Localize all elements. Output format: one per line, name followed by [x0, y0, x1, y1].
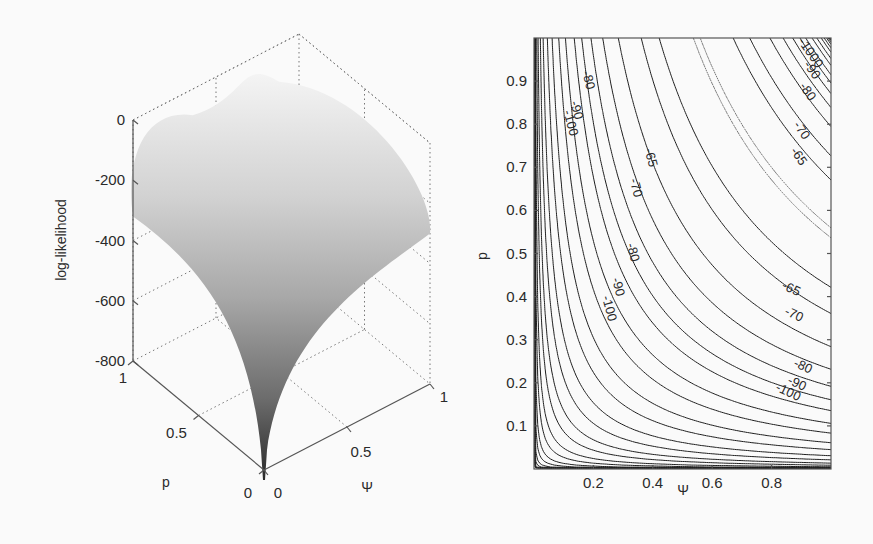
- p-tick-label: 1: [119, 369, 127, 386]
- z-tick-label: -800: [95, 352, 125, 369]
- surface-plot-3d: 0-200-400-600-80000.5100.51 log-likeliho…: [53, 34, 448, 501]
- contour-label: -70: [783, 303, 806, 325]
- x-tick-label: 0.2: [583, 474, 604, 491]
- z-tick: [133, 361, 138, 365]
- x-tick-label: 0.8: [761, 474, 782, 491]
- p-tick: [194, 416, 199, 420]
- z-tick-label: 0: [117, 111, 125, 128]
- psi-tick-label: 0: [274, 484, 282, 501]
- y-tick-label: 0.3: [506, 331, 527, 348]
- x-tick-label: 0.6: [702, 474, 723, 491]
- y-tick-label: 0.1: [506, 417, 527, 434]
- psi-tick: [430, 384, 434, 389]
- psi-tick-label: 0.5: [351, 443, 372, 460]
- z-tick: [133, 241, 138, 245]
- z-tick: [133, 301, 138, 305]
- y-tick-label: 0.5: [506, 245, 527, 262]
- p-tick-label: 0: [244, 484, 252, 501]
- contour-label: -70: [627, 177, 646, 199]
- contour-label: -65: [788, 144, 811, 168]
- y-tick-label: 0.6: [506, 201, 527, 218]
- z-tick-label: -400: [95, 232, 125, 249]
- contour-plot: -80-90-100-65-70-80-90-100-1000-90-80-70…: [474, 35, 831, 498]
- p-tick: [128, 361, 133, 365]
- contour-label: -100: [599, 294, 620, 323]
- contour-line: [582, 38, 831, 400]
- z-tick-label: -600: [95, 292, 125, 309]
- contour-labels: -80-90-100-65-70-80-90-100-1000-90-80-70…: [560, 35, 826, 404]
- y-tick-label: 0.4: [506, 288, 527, 305]
- contour-label: -65: [780, 277, 803, 299]
- z-tick-label: -200: [95, 171, 125, 188]
- y-tick-label: 0.8: [506, 115, 527, 132]
- psi-tick-label: 1: [440, 388, 448, 405]
- p-tick-label: 0.5: [166, 424, 187, 441]
- contour-line: [641, 38, 831, 314]
- psi-tick: [347, 427, 351, 432]
- log-likelihood-surface: [131, 74, 430, 480]
- figure: 0-200-400-600-80000.5100.51 log-likeliho…: [0, 0, 873, 544]
- p-axis-label: p: [474, 252, 490, 260]
- psi-axis-label-3d: Ψ: [361, 479, 373, 495]
- contour-line: [565, 38, 831, 423]
- p-axis-label-3d: p: [162, 474, 170, 490]
- contour-label: -65: [642, 146, 661, 168]
- z-tick: [133, 120, 138, 124]
- psi-axis-label: Ψ: [677, 482, 689, 498]
- contour-line: [618, 38, 831, 347]
- y-tick-label: 0.7: [506, 158, 527, 175]
- y-tick-label: 0.2: [506, 374, 527, 391]
- contour-label: -80: [796, 79, 819, 103]
- x-tick-label: 0.4: [642, 474, 663, 491]
- contour-line: [591, 38, 831, 386]
- y-tick-label: 0.9: [506, 72, 527, 89]
- contour-label: -80: [624, 241, 643, 263]
- z-axis-label: log-likelihood: [53, 199, 69, 281]
